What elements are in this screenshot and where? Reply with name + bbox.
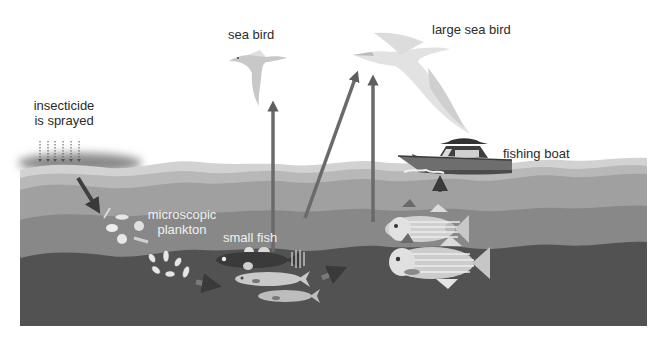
insecticide-label-line1: insecticide bbox=[24, 98, 104, 113]
plankton-label-line1: microscopic bbox=[144, 207, 220, 222]
sea-bird-icon bbox=[229, 50, 287, 106]
insecticide-label: insecticide is sprayed bbox=[24, 98, 104, 128]
ocean bbox=[20, 158, 647, 326]
large-sea-bird-label: large sea bird bbox=[432, 22, 511, 37]
plankton-label-line2: plankton bbox=[144, 222, 220, 237]
small-fish-label: small fish bbox=[223, 230, 277, 245]
arrow-plankton-to-smallfish bbox=[196, 282, 212, 285]
insecticide-label-line2: is sprayed bbox=[24, 113, 104, 128]
sea-bird-label: sea bird bbox=[228, 27, 274, 42]
fishing-boat-label: fishing boat bbox=[503, 146, 570, 161]
plankton-label: microscopic plankton bbox=[144, 207, 220, 237]
large-sea-bird-icon bbox=[353, 33, 470, 134]
food-chain-scene bbox=[0, 0, 667, 346]
